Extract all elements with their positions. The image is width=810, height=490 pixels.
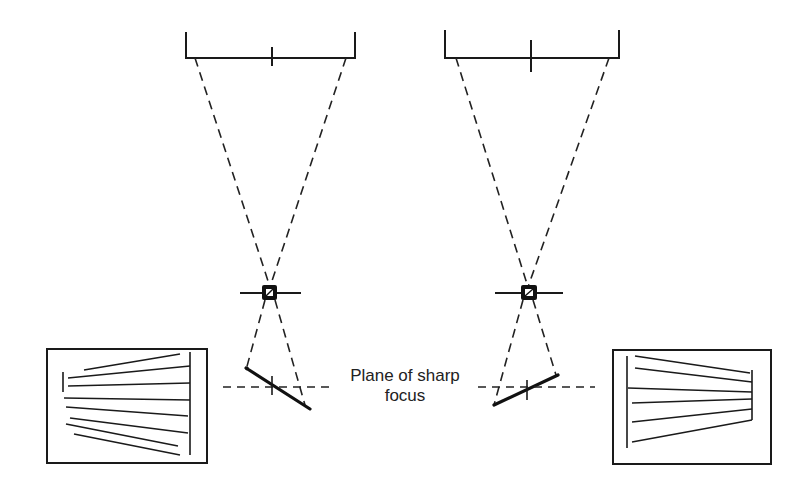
right-light-rays — [456, 58, 609, 405]
right-lens-icon — [495, 285, 563, 300]
diagram-canvas — [0, 0, 810, 490]
left-light-rays — [195, 58, 346, 405]
right-subject-bracket — [445, 30, 619, 72]
right-result-image — [613, 350, 771, 464]
left-lens-icon — [240, 285, 301, 300]
left-result-image — [47, 349, 207, 463]
right-film-plane — [494, 375, 558, 405]
plane-of-focus-label-line1: Plane of sharp — [335, 366, 475, 386]
left-subject-bracket — [186, 32, 355, 66]
plane-of-focus-label: Plane of sharp focus — [333, 366, 477, 406]
plane-of-focus-label-line2: focus — [335, 386, 475, 406]
